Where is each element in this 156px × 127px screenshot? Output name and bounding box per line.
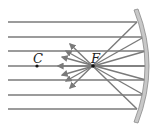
center-label: C [33,52,43,65]
reflected-rays [58,22,147,109]
focus-label: F [91,52,100,65]
ray-diagram-canvas [0,0,156,127]
concave-mirror-diagram: C F [0,0,156,127]
